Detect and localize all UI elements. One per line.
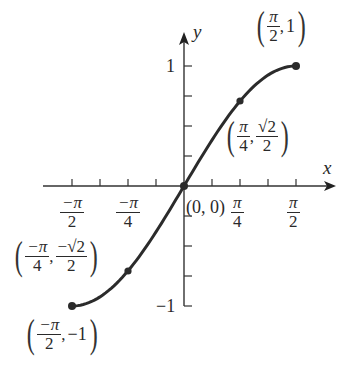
label-x-denominator: 4 (31, 257, 44, 275)
label-x-denominator: 2 (43, 335, 56, 353)
close-paren: ) (90, 236, 98, 276)
open-paren: ( (15, 236, 23, 276)
point-label-quarter-pi: (π4,√22) (224, 116, 291, 156)
label-x-numerator: π (267, 8, 280, 27)
point-label-neg-quarter-pi: (−π4,−√22) (12, 236, 100, 276)
tick-numerator: π (287, 194, 300, 213)
tick-denominator: 2 (66, 213, 79, 231)
close-paren: ) (89, 314, 97, 354)
label-x-denominator: 2 (267, 27, 280, 45)
label-x-numerator: −π (37, 316, 61, 335)
comma: , (49, 247, 53, 266)
x-axis-label: x (323, 158, 331, 177)
y-axis-label: y (193, 22, 201, 41)
comma: , (61, 325, 65, 344)
point-neg-quarter-pi (124, 267, 131, 274)
x-tick-label-half-pi: π2 (287, 194, 300, 231)
label-y-denominator: 2 (261, 137, 274, 155)
tick-denominator: 4 (122, 213, 135, 231)
point-quarter-pi (236, 97, 243, 104)
open-paren: ( (227, 116, 235, 156)
label-y-numerator: −√2 (56, 238, 87, 257)
tick-numerator: π (231, 194, 244, 213)
point-neg-half-pi (68, 302, 76, 310)
close-paren: ) (298, 6, 306, 46)
label-y-numerator: √2 (256, 118, 278, 137)
origin-label: (0, 0) (186, 198, 225, 216)
open-paren: ( (257, 6, 265, 46)
point-label-neg-half-pi: (−π2,−1) (24, 314, 100, 354)
point-label-half-pi: (π2,1) (254, 6, 308, 46)
label-y-value: 1 (286, 16, 295, 36)
comma: , (250, 127, 254, 146)
label-y-value: −1 (68, 324, 87, 344)
x-tick-label-neg-quarter-pi: −π4 (116, 194, 140, 231)
tick-numerator: −π (60, 194, 84, 213)
comma: , (280, 17, 284, 36)
point-half-pi (292, 62, 300, 70)
y-tick-label-neg1: −1 (156, 297, 175, 315)
x-tick-label-quarter-pi: π4 (231, 194, 244, 231)
label-x-numerator: −π (25, 238, 49, 257)
y-tick-label-1: 1 (166, 57, 175, 75)
close-paren: ) (281, 116, 289, 156)
tick-denominator: 2 (287, 213, 300, 231)
x-tick-label-neg-half-pi: −π2 (60, 194, 84, 231)
label-x-numerator: π (237, 118, 250, 137)
point-origin (180, 182, 188, 190)
label-x-denominator: 4 (237, 137, 250, 155)
tick-denominator: 4 (231, 213, 244, 231)
label-y-denominator: 2 (65, 257, 78, 275)
open-paren: ( (27, 314, 35, 354)
tick-numerator: −π (116, 194, 140, 213)
